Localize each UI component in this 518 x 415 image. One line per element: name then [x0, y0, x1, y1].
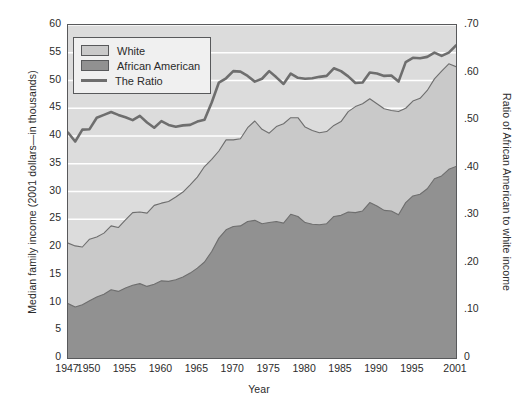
x-axis-tick-label: 1980	[284, 362, 324, 374]
y-axis-right-title: Ratio of African American to white incom…	[501, 27, 513, 357]
x-axis-tick-label: 1960	[140, 362, 180, 374]
y-axis-left-tick-label: 25	[37, 211, 61, 223]
x-axis-tick-label: 1990	[356, 362, 396, 374]
legend-label-african-american: African American	[117, 60, 200, 72]
legend-item-african-american: African American	[81, 58, 200, 73]
legend-item-the-ratio: The Ratio	[81, 73, 200, 88]
x-axis-tick-label: 2001	[435, 362, 475, 374]
y-axis-left-tick-label: 60	[37, 17, 61, 29]
y-axis-left-tick-label: 10	[37, 295, 61, 307]
y-axis-left-tick-label: 55	[37, 45, 61, 57]
x-axis-tick-label: 1955	[104, 362, 144, 374]
x-axis-tick-label: 1950	[69, 362, 109, 374]
x-axis-tick-label: 1995	[392, 362, 432, 374]
y-axis-right-tick-label: .60	[464, 65, 492, 77]
y-axis-right-tick-label: .50	[464, 112, 492, 124]
y-axis-right-tick-label: .40	[464, 160, 492, 172]
y-axis-right-tick-label: .70	[464, 17, 492, 29]
y-axis-left-tick-label: 15	[37, 267, 61, 279]
legend-swatch-african-american-icon	[81, 60, 109, 71]
y-axis-left-tick-label: 45	[37, 100, 61, 112]
y-axis-left-tick-label: 5	[37, 322, 61, 334]
x-axis-tick-label: 1965	[176, 362, 216, 374]
y-axis-left-tick-label: 40	[37, 128, 61, 140]
y-axis-left-tick-label: 50	[37, 73, 61, 85]
x-axis-title: Year	[0, 383, 518, 395]
legend-label-white: White	[117, 45, 145, 57]
legend-label-the-ratio: The Ratio	[115, 75, 163, 87]
chart-figure: Median family income (2001 dollars—in th…	[0, 0, 518, 415]
x-axis-tick-label: 1985	[320, 362, 360, 374]
x-axis-tick-label: 1975	[248, 362, 288, 374]
y-axis-left-tick-label: 35	[37, 156, 61, 168]
legend-line-ratio-icon	[81, 76, 107, 85]
legend-swatch-white-icon	[81, 45, 109, 56]
y-axis-left-tick-label: 0	[37, 350, 61, 362]
y-axis-right-tick-label: .20	[464, 255, 492, 267]
y-axis-right-tick-label: .30	[464, 207, 492, 219]
y-axis-right-tick-label: 0	[464, 350, 492, 362]
chart-legend: White African American The Ratio	[73, 37, 211, 94]
x-axis-tick-label: 1970	[212, 362, 252, 374]
y-axis-left-tick-label: 20	[37, 239, 61, 251]
legend-item-white: White	[81, 43, 200, 58]
y-axis-right-tick-label: .10	[464, 302, 492, 314]
y-axis-left-tick-label: 30	[37, 184, 61, 196]
